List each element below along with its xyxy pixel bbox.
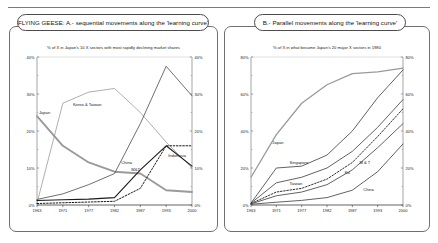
y-tick-label-right: 40%	[406, 129, 414, 134]
y-tick-label-left: 0%	[243, 203, 249, 208]
y-tick-label-right: 60%	[406, 92, 414, 97]
panel-chart-b: % of X in what became Japan's 20 major X…	[224, 26, 430, 232]
y-tick-label-left: 40%	[240, 129, 248, 134]
y-tick-label-right: 80%	[406, 55, 414, 60]
y-tick-label-right: 20%	[406, 166, 414, 171]
series-label-singapore: Singapore	[290, 160, 309, 165]
y-tick-label-right: 20%	[195, 129, 203, 134]
y-tick-label-right: 10%	[195, 166, 203, 171]
y-tick-label-left: 30%	[26, 92, 34, 97]
x-tick-label: 1993	[162, 208, 172, 213]
callout-flying-geese-b: B.- Parallel movements along the 'learni…	[254, 14, 406, 31]
x-tick-label: 2000	[188, 208, 198, 213]
callout-a-label: FLYING GEESE: A.- sequential movements a…	[18, 19, 208, 26]
x-tick-label: 1987	[348, 208, 358, 213]
series-label-japan: Japan	[39, 110, 51, 115]
y-tick-label-right: 30%	[195, 92, 203, 97]
series-label-indonesia: Indonesia	[168, 153, 186, 158]
y-tick-label-right: 40%	[195, 55, 203, 60]
panel-chart-a: % of X in Japan's 10 X sectors with most…	[9, 26, 218, 232]
chart-b-plot-area: 0%0%20%20%40%40%60%60%80%80%196319711977…	[225, 27, 429, 231]
series-line-japan	[251, 68, 403, 177]
y-tick-label-left: 0%	[29, 203, 35, 208]
x-tick-label: 1982	[110, 208, 120, 213]
series-label-m-t: M&T	[131, 167, 140, 172]
series-label-japan: Japan	[272, 140, 284, 145]
y-tick-label-left: 80%	[240, 55, 248, 60]
series-label-taiwan: Taiwan	[290, 181, 303, 186]
y-tick-label-left: 60%	[240, 92, 248, 97]
x-tick-label: 1963	[33, 208, 43, 213]
slide-canvas: FLYING GEESE: A.- sequential movements a…	[0, 0, 438, 243]
y-tick-label-left: 10%	[26, 166, 34, 171]
callout-flying-geese-a: FLYING GEESE: A.- sequential movements a…	[17, 14, 209, 31]
series-label-china: China	[121, 160, 132, 165]
chart-a-svg: 0%0%10%10%20%20%30%30%40%40%196319711977…	[10, 27, 217, 231]
x-tick-label: 1982	[323, 208, 333, 213]
series-line-m-t	[251, 124, 403, 204]
series-label-ko: Ko.	[345, 170, 351, 175]
series-line-ko	[251, 109, 403, 204]
x-tick-label: 1971	[58, 208, 68, 213]
y-tick-label-left: 20%	[240, 166, 248, 171]
series-line-china	[37, 66, 192, 199]
y-tick-label-left: 20%	[26, 129, 34, 134]
series-line-china	[251, 144, 403, 204]
y-tick-label-right: 0%	[406, 203, 412, 208]
chart-b-svg: 0%0%20%20%40%40%60%60%80%80%196319711977…	[225, 27, 429, 231]
series-line-taiwan	[251, 100, 403, 204]
x-tick-label: 1971	[272, 208, 282, 213]
series-label-m-t: M & T	[359, 160, 370, 165]
series-label-korea-taiwan: Korea & Taiwan	[73, 102, 102, 107]
x-tick-label: 1993	[373, 208, 383, 213]
x-tick-label: 1977	[297, 208, 307, 213]
series-label-china: China	[363, 187, 374, 192]
chart-a-plot-area: 0%0%10%10%20%20%30%30%40%40%196319711977…	[10, 27, 217, 231]
x-tick-label: 2000	[399, 208, 409, 213]
callout-b-label: B.- Parallel movements along the 'learni…	[263, 19, 398, 26]
series-line-singapore	[251, 70, 403, 203]
y-tick-label-left: 40%	[26, 55, 34, 60]
x-tick-label: 1963	[247, 208, 257, 213]
x-tick-label: 1987	[136, 208, 146, 213]
y-tick-label-right: 0%	[195, 203, 201, 208]
x-tick-label: 1977	[84, 208, 94, 213]
top-divider-rule	[8, 7, 430, 8]
